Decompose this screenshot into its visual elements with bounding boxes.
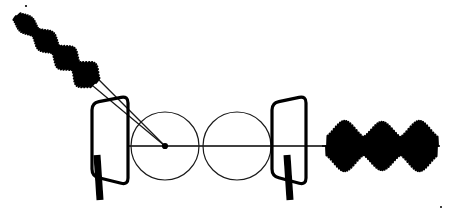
left-plate-stem: [97, 155, 100, 200]
optics-diagram: [0, 0, 451, 214]
ink-speck-bottom-right: [440, 206, 442, 208]
focal-point-dot: [162, 143, 168, 149]
ink-speck-top: [25, 5, 27, 7]
diagram-canvas: [0, 0, 451, 214]
right-plate-stem: [287, 155, 290, 200]
incident-wave-packet: [13, 13, 99, 87]
converging-ray-2: [98, 79, 165, 147]
